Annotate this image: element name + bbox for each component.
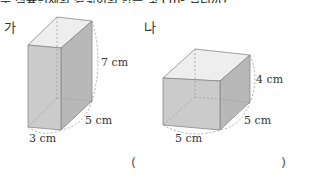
answer-open-paren: ( bbox=[131, 155, 136, 170]
answer-blank[interactable] bbox=[140, 155, 278, 171]
cuboid-na: 4 cm 5 cm 5 cm bbox=[163, 49, 284, 145]
dim-na-height: 4 cm bbox=[256, 73, 284, 86]
dim-ga-height: 7 cm bbox=[101, 56, 129, 69]
dim-na-depth: 5 cm bbox=[244, 114, 272, 127]
dim-ga-depth: 5 cm bbox=[85, 114, 113, 127]
cuboid-ga: 7 cm 5 cm 3 cm bbox=[28, 17, 129, 145]
dim-na-width: 5 cm bbox=[175, 132, 203, 145]
answer-close-paren: ) bbox=[281, 155, 286, 170]
dim-ga-width: 3 cm bbox=[29, 132, 57, 145]
